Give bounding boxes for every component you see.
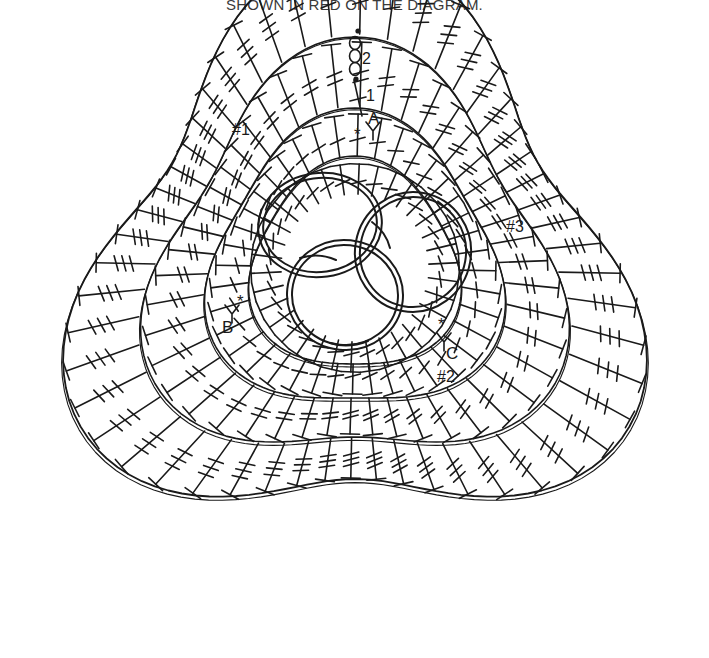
label-repeat-star-c: * — [438, 315, 445, 334]
center-interlocking-rings — [251, 165, 480, 356]
crochet-diagram-page: SHOWN IN RED ON THE DIAGRAM. — [0, 0, 709, 658]
label-marker-a: A — [368, 109, 380, 128]
label-marker-c: C — [446, 344, 458, 363]
label-repeat-star-a: * — [354, 125, 361, 144]
round2-stitches — [143, 42, 567, 443]
label-start-chain-count: 2 — [362, 50, 371, 67]
label-round-one: #1 — [232, 121, 250, 138]
slip-stitch-dot-top — [355, 28, 360, 33]
label-round-two: #2 — [437, 368, 455, 385]
label-marker-b: B — [222, 318, 233, 337]
label-round-three: #3 — [506, 218, 524, 235]
crochet-stitch-diagram: 2 1 A * #1 #3 * B * C #2 — [0, 0, 709, 658]
round3-outline — [60, 31, 648, 612]
label-repeat-star-b: * — [237, 292, 244, 311]
label-first-stitch-number: 1 — [366, 87, 375, 104]
